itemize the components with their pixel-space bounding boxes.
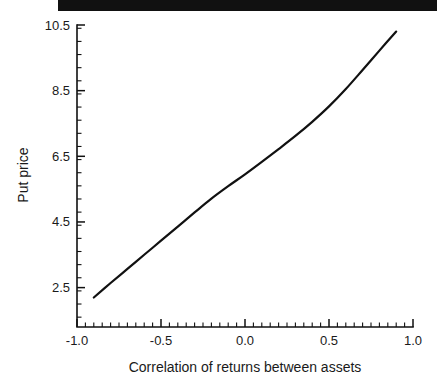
y-axis-title: Put price <box>15 147 31 202</box>
y-tick-label: 8.5 <box>52 83 70 98</box>
x-tick-label: -1.0 <box>66 333 88 348</box>
x-axis-title: Correlation of returns between assets <box>129 359 362 375</box>
figure-container: 2.54.56.58.510.5 -1.0-0.50.00.51.0 Corre… <box>0 0 437 389</box>
x-tick-label: 0.0 <box>236 333 254 348</box>
data-series-line <box>94 32 396 298</box>
y-tick-label: 10.5 <box>45 18 70 33</box>
x-tick-label: 1.0 <box>404 333 422 348</box>
y-axis-major-ticks <box>77 25 85 288</box>
y-tick-label: 2.5 <box>52 280 70 295</box>
y-tick-label: 6.5 <box>52 149 70 164</box>
y-tick-label: 4.5 <box>52 214 70 229</box>
x-tick-label: -0.5 <box>150 333 172 348</box>
x-axis-tick-labels: -1.0-0.50.00.51.0 <box>66 333 422 348</box>
y-axis-tick-labels: 2.54.56.58.510.5 <box>45 18 70 296</box>
chart-plot: 2.54.56.58.510.5 -1.0-0.50.00.51.0 Corre… <box>0 0 437 389</box>
x-tick-label: 0.5 <box>320 333 338 348</box>
